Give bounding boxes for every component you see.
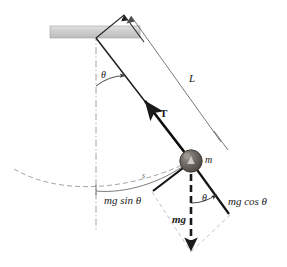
mg-sin-theta-vector [153, 165, 187, 191]
arc-length-indicator [96, 164, 186, 191]
weight-label: mg [172, 214, 186, 225]
mass-label: m [205, 155, 212, 165]
pendulum-bob-highlight [184, 153, 191, 160]
theta-bottom-label: θ [202, 193, 207, 203]
figure-canvas [0, 0, 287, 267]
pendulum-figure: θ L T m s mg sin θ θ mg cos θ mg [0, 0, 287, 267]
length-dimension-line [131, 16, 221, 142]
arc-length-label: s [142, 172, 145, 180]
ceiling-support-bar [50, 26, 140, 38]
mg-cos-theta-label: mg cos θ [228, 196, 267, 207]
tension-label: T [160, 108, 167, 119]
length-label: L [189, 73, 195, 84]
mg-cos-theta-vector [195, 167, 229, 214]
mg-sin-theta-label: mg sin θ [104, 195, 141, 206]
theta-top-label: θ [101, 70, 106, 80]
